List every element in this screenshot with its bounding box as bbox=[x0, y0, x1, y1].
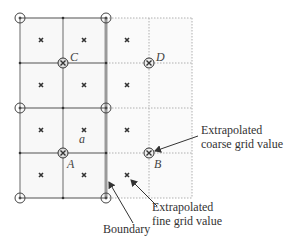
label-a: a bbox=[79, 132, 85, 146]
label-B: B bbox=[154, 157, 162, 171]
coarse-label-line1: Extrapolated bbox=[201, 123, 262, 137]
point-C-marker bbox=[58, 58, 68, 68]
label-C: C bbox=[70, 50, 79, 64]
grid-diagram: C D A B a Extrapolated coarse grid value… bbox=[0, 0, 291, 245]
boundary-label: Boundary bbox=[103, 222, 150, 236]
label-D: D bbox=[155, 50, 165, 64]
point-D-marker bbox=[144, 58, 154, 68]
fine-label-line1: Extrapolated bbox=[152, 200, 213, 214]
label-A: A bbox=[66, 157, 75, 171]
coarse-label-line2: coarse grid value bbox=[201, 137, 283, 151]
fine-label-line2: fine grid value bbox=[152, 214, 222, 228]
point-B-marker bbox=[144, 148, 154, 158]
